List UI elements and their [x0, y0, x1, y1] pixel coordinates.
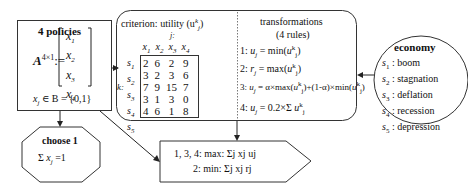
- table-row: 3130: [140, 93, 192, 105]
- arrow-head-icon: [57, 121, 63, 127]
- table-row: 79157: [140, 81, 192, 93]
- objective-line-2: 2: min: Σj xj rj: [193, 163, 252, 174]
- transformations-title: transformations: [260, 16, 323, 27]
- row-axis-label: k:: [117, 82, 124, 92]
- economy-states: s1 : boom s2 : stagnation s3 : deflation…: [382, 57, 440, 137]
- transformations-subtitle: (4 rules): [276, 29, 310, 40]
- economy-title: economy: [394, 41, 436, 53]
- choose-constraint: Σ xj =1: [38, 152, 66, 166]
- arrow-head-icon: [234, 135, 240, 141]
- arrow-head-icon: [153, 155, 160, 162]
- objective-line-1: 1, 3, 4: max: Σj xj uj: [174, 148, 256, 159]
- list-item: s2 : stagnation: [382, 73, 440, 89]
- list-item: s1 : boom: [382, 57, 440, 73]
- rule-2: 2: rj = max(ukj): [240, 62, 301, 77]
- list-item: s5 : depression: [382, 121, 440, 137]
- table-row: 4618: [140, 105, 192, 117]
- choose-title: choose 1: [42, 135, 78, 146]
- criterion-title: criterion: utility (ukj): [121, 17, 203, 32]
- policy-domain: xj ∈ B = {0,1}: [33, 93, 91, 107]
- rule-4: 4: uj = 0.2×Σ ukj: [240, 101, 305, 116]
- list-item: s4 : recession: [382, 105, 440, 121]
- column-axis-label: j:: [170, 31, 175, 40]
- rule-1: 1: uj = min(ukj): [240, 44, 301, 59]
- rule-3: 3: uj = α×max(ukj)+(1-α)×min(ukj): [240, 80, 365, 95]
- table-row: 2629: [140, 57, 192, 69]
- utility-table: 2629 3236 79157 3130 4618: [140, 57, 192, 117]
- arrow-head-icon: [357, 72, 363, 78]
- matrix-label: A4×1:=: [33, 53, 65, 69]
- list-item: s3 : deflation: [382, 89, 440, 105]
- column-headers: x1x2x3x4: [140, 41, 192, 55]
- table-row: 3236: [140, 69, 192, 81]
- row-headers: s1s2s3s4s5: [127, 57, 134, 137]
